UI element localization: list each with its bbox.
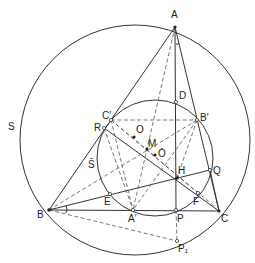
point-A-prime [131,208,134,211]
label-D: D [179,90,186,101]
point-P [174,208,177,211]
label-C-prime: C′ [102,110,111,121]
label-O-bar: Ō [158,148,166,159]
point-A [173,25,176,28]
label-B: B [37,209,44,220]
dashed-A-A1 [133,27,175,210]
dashed-B-B1 [49,120,197,210]
point-F [196,191,199,194]
point-O [132,135,135,138]
label-R: R [94,122,101,133]
label-H: H [178,165,185,176]
label-P: P [177,213,184,224]
label-P1: P₁ [178,243,189,254]
label-C: C [221,213,228,224]
point-B [47,208,51,212]
point-B-prime [195,118,198,121]
point-O-bar [153,153,156,156]
label-M: M [148,138,156,149]
label-S: S [8,121,15,132]
label-E: E [104,196,111,207]
label-O: O [136,124,144,135]
segment-QC [210,170,219,211]
label-A-prime: A′ [128,213,137,224]
label-S-bar: S̄ [88,158,95,170]
label-F: F [193,196,199,207]
label-Q: Q [213,165,221,176]
dashed-C1-A1 [111,120,133,210]
geometry-diagram: S S̄ A B C D B′ C′ R O M Ō H Q E F A′ P … [0,0,255,263]
label-B-prime: B′ [200,112,209,123]
point-Q [208,168,211,171]
altitude-AP [175,27,176,210]
point-R [102,126,105,129]
diagram-svg: S S̄ A B C D B′ C′ R O M Ō H Q E F A′ P … [0,0,255,263]
angle-mark-A [176,43,179,44]
dashed-B-P1 [49,210,177,241]
line-BQ [49,170,210,210]
label-A: A [171,9,178,20]
point-D [174,100,177,103]
point-H [175,176,179,180]
angle-mark-B [66,206,67,213]
